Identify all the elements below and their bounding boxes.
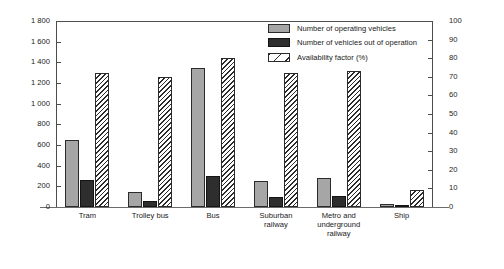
legend-swatch-hatched [268,53,290,62]
right-axis-tick [428,188,433,189]
bar [158,77,172,207]
bar [332,196,346,207]
right-axis-tick [428,133,433,134]
bar-group [65,21,109,207]
left-axis-tick [56,186,61,187]
bar-group [191,21,235,207]
bar [269,197,283,207]
right-axis-tick-label: 100 [449,17,462,25]
left-y-axis: 02004006008001 0001 2001 4001 6001 800 [0,0,50,269]
x-axis-baseline [40,207,449,208]
legend-swatch-solid-dark [268,38,290,47]
left-axis-tick [56,42,61,43]
right-axis-tick-label: 30 [449,147,457,155]
left-axis-tick [56,145,61,146]
bar [347,71,361,207]
right-axis-tick-label: 40 [449,129,457,137]
left-axis-tick [56,62,61,63]
category-label-line: underground [301,220,376,229]
right-axis-tick [428,40,433,41]
left-axis-tick [56,124,61,125]
left-axis-tick-label: 1 400 [0,58,50,66]
x-axis-category-label: Ship [364,211,439,220]
category-label-line: railway [301,229,376,238]
legend-item: Number of operating vehicles [268,22,436,35]
bar [380,204,394,207]
legend-label: Availability factor (%) [297,53,368,62]
right-axis-tick-label: 70 [449,73,457,81]
left-axis-tick-label: 200 [0,182,50,190]
bar [128,192,142,207]
x-axis-category-labels: TramTrolley busBusSuburbanrailwayMetro a… [56,211,433,267]
legend-item: Number of vehicles out of operation [268,37,436,50]
bar [95,73,109,207]
bar [206,176,220,207]
legend-label: Number of vehicles out of operation [297,38,417,47]
left-axis-tick-label: 1 000 [0,100,50,108]
right-axis-tick [428,151,433,152]
bar [221,58,235,207]
legend-label: Number of operating vehicles [297,24,396,33]
bar [143,201,157,207]
right-axis-tick-label: 90 [449,36,457,44]
right-axis-tick-label: 10 [449,184,457,192]
bar [317,178,331,207]
left-axis-tick [56,166,61,167]
left-axis-tick-label: 800 [0,120,50,128]
left-axis-tick-label: 400 [0,162,50,170]
bar [80,180,94,207]
left-axis-tick-label: 1 200 [0,79,50,87]
right-axis-tick-label: 20 [449,166,457,174]
bar [254,181,268,207]
left-axis-tick-label: 1 800 [0,17,50,25]
bar [410,190,424,207]
left-axis-tick-label: 0 [0,203,50,211]
right-axis-tick [428,114,433,115]
chart-container: 02004006008001 0001 2001 4001 6001 800 0… [0,0,504,269]
bar [65,140,79,207]
legend-swatch-solid-gray [268,24,290,33]
right-y-axis: 0102030405060708090100 [440,0,500,269]
right-axis-tick [428,58,433,59]
category-label-line: Ship [364,211,439,220]
left-axis-tick [56,83,61,84]
bar [395,205,409,207]
chart-legend: Number of operating vehiclesNumber of ve… [268,22,436,66]
bar [191,68,205,208]
right-axis-tick-label: 80 [449,54,457,62]
right-axis-tick-label: 60 [449,91,457,99]
right-axis-tick-label: 50 [449,110,457,118]
right-axis-tick [428,77,433,78]
bar [284,73,298,207]
right-axis-tick [428,95,433,96]
legend-item: Availability factor (%) [268,51,436,64]
bar-group [128,21,172,207]
right-axis-tick [428,170,433,171]
left-axis-tick [56,104,61,105]
left-axis-tick-label: 1 600 [0,38,50,46]
right-axis-tick-label: 0 [449,203,453,211]
left-axis-tick-label: 600 [0,141,50,149]
